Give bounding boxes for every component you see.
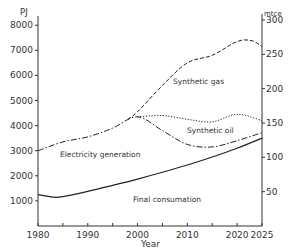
- right-tick-label: 200: [266, 84, 283, 94]
- x-tick-label: 1980: [27, 230, 50, 240]
- x-tick-label: 1990: [76, 230, 99, 240]
- x-axis-title: Year: [140, 239, 160, 249]
- right-tick-label: 50: [266, 187, 278, 197]
- right-tick-label: 100: [266, 152, 283, 162]
- right-tick-label: 150: [266, 118, 283, 128]
- x-tick-label: 2020: [226, 230, 249, 240]
- left-tick-label: 5000: [10, 96, 33, 106]
- synthetic-oil-line: [138, 114, 262, 122]
- left-tick-label: 3000: [10, 146, 33, 156]
- left-unit-label: PJ: [20, 7, 28, 17]
- annotation-synthetic-oil: Synthetic oil: [187, 126, 234, 135]
- annotation-final-consumption: Final consumation: [133, 195, 201, 204]
- series-group: [38, 40, 262, 197]
- x-tick-label: 2010: [176, 230, 199, 240]
- final-consumption-line: [38, 138, 262, 197]
- annotation-electricity-generation: Electricity generation: [60, 150, 141, 159]
- annotation-synthetic-gas: Synthetic gas: [173, 77, 224, 86]
- right-tick-label: 300: [266, 15, 283, 25]
- right-tick-label: 250: [266, 49, 283, 59]
- energy-projection-chart: PJ mtce 10002000300040005000600070008000…: [0, 0, 289, 252]
- left-tick-label: 8000: [10, 20, 33, 30]
- x-tick-label: 2025: [251, 230, 274, 240]
- left-tick-label: 4000: [10, 121, 33, 131]
- left-tick-label: 1000: [10, 196, 33, 206]
- left-ticks: 10002000300040005000600070008000: [10, 20, 38, 206]
- left-tick-label: 2000: [10, 171, 33, 181]
- left-tick-label: 7000: [10, 45, 33, 55]
- right-ticks: 50100150200250300: [262, 15, 283, 197]
- left-tick-label: 6000: [10, 70, 33, 80]
